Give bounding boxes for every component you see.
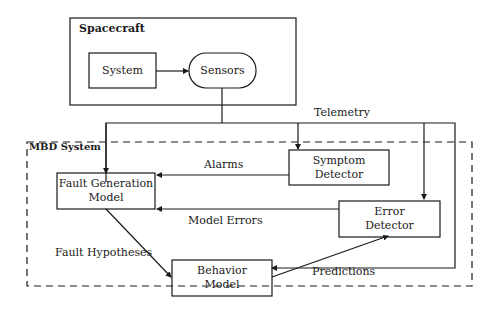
sensors-label: Sensors	[200, 64, 244, 78]
model-errors-label: Model Errors	[188, 214, 263, 227]
alarms-label: Alarms	[204, 158, 243, 171]
system-label: System	[102, 64, 143, 78]
error-detector-line1: Error	[374, 205, 404, 219]
error-detector-line2: Detector	[365, 219, 414, 233]
sensors-node: Sensors	[189, 53, 256, 88]
mbd-system-title: MBD System	[29, 140, 101, 153]
behavior-model-line2: Model	[205, 278, 240, 292]
fault-generation-model-node: Fault Generation Model	[57, 173, 155, 209]
behavior-model-line1: Behavior	[197, 264, 247, 278]
fault-generation-model-line2: Model	[89, 191, 124, 205]
spacecraft-title: Spacecraft	[79, 22, 145, 35]
system-node: System	[89, 53, 156, 88]
behavior-model-node: Behavior Model	[172, 260, 272, 296]
fault-hypotheses-label: Fault Hypotheses	[55, 246, 152, 259]
predictions-label: Predictions	[312, 265, 375, 278]
symptom-detector-line2: Detector	[315, 168, 364, 182]
symptom-detector-node: Symptom Detector	[289, 150, 389, 185]
fault-generation-model-line1: Fault Generation	[59, 177, 153, 191]
error-detector-node: Error Detector	[339, 201, 440, 237]
symptom-detector-line1: Symptom	[313, 154, 366, 168]
telemetry-label: Telemetry	[314, 106, 370, 119]
